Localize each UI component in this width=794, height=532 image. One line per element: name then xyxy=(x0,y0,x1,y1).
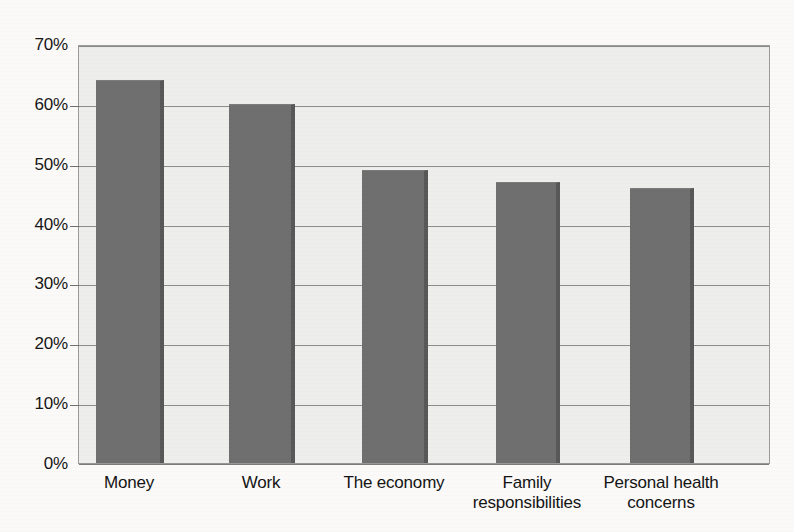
y-axis-tick xyxy=(70,226,79,227)
y-axis-tick-label: 50% xyxy=(8,156,68,173)
gridline-60pct xyxy=(79,106,769,107)
y-axis-tick-label: 30% xyxy=(8,275,68,292)
y-axis-tick-label: 40% xyxy=(8,216,68,233)
bar-chart-figure: 0%10%20%30%40%50%60%70% MoneyWorkThe eco… xyxy=(0,0,794,532)
y-axis-tick-label: 70% xyxy=(8,36,68,53)
bar-personal-health-concerns xyxy=(630,188,694,463)
y-axis-tick xyxy=(70,405,79,406)
bar-work xyxy=(229,104,295,463)
x-axis-label-personal-health-concerns: Personal healthconcerns xyxy=(571,473,751,513)
y-axis-tick-label: 0% xyxy=(8,455,68,472)
x-axis-label-line: Personal health xyxy=(571,473,751,493)
gridline-50pct xyxy=(79,166,769,167)
y-axis-tick xyxy=(70,166,79,167)
y-axis-tick-label: 60% xyxy=(8,96,68,113)
bar-family-responsibilities xyxy=(496,182,560,463)
y-axis-tick-label: 10% xyxy=(8,395,68,412)
y-axis-tick xyxy=(70,285,79,286)
y-axis-tick xyxy=(70,345,79,346)
gridline-70pct xyxy=(79,46,769,47)
bar-the-economy xyxy=(362,170,428,463)
x-axis-label-line: concerns xyxy=(571,493,751,513)
y-axis-tick xyxy=(70,106,79,107)
gridline-0pct xyxy=(79,464,769,465)
bar-money xyxy=(96,80,164,463)
plot-area xyxy=(78,45,770,464)
y-axis-tick-label: 20% xyxy=(8,335,68,352)
